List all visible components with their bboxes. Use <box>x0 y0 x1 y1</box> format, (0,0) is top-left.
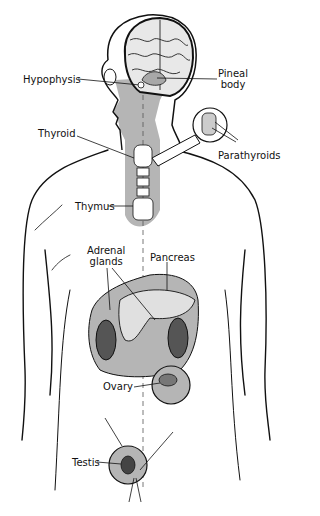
label-hypophysis: Hypophysis <box>23 74 81 85</box>
label-adrenal-line1: Adrenal <box>87 245 125 256</box>
label-ovary: Ovary <box>103 381 133 392</box>
hypophysis-gland <box>138 82 144 88</box>
label-pineal-body: Pineal body <box>218 68 248 90</box>
label-pineal-line2: body <box>218 79 248 90</box>
kidney-right <box>168 318 188 358</box>
label-parathyroids: Parathyroids <box>218 150 280 161</box>
label-pineal-line1: Pineal <box>218 68 248 79</box>
label-adrenal-glands: Adrenal glands <box>87 245 125 267</box>
label-thyroid: Thyroid <box>38 128 76 139</box>
label-adrenal-line2: glands <box>87 256 125 267</box>
label-pancreas: Pancreas <box>150 252 195 263</box>
label-thymus: Thymus <box>75 201 115 212</box>
label-testis: Testis <box>72 457 100 468</box>
kidney-left <box>96 320 116 360</box>
body-outline <box>22 150 108 440</box>
